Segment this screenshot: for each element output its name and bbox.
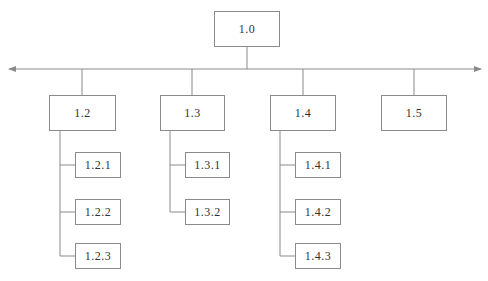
node-label: 1.3.2 (194, 205, 221, 220)
node-label: 1.0 (239, 22, 256, 37)
node-1-4: 1.4 (270, 95, 336, 131)
node-1-2-2: 1.2.2 (75, 199, 121, 225)
node-1-4-3: 1.4.3 (295, 243, 341, 269)
node-label: 1.4 (295, 106, 312, 121)
node-label: 1.5 (406, 106, 423, 121)
node-label: 1.3.1 (194, 158, 221, 173)
node-1-2: 1.2 (49, 95, 116, 131)
node-1-3-1: 1.3.1 (185, 152, 230, 178)
node-1-2-3: 1.2.3 (75, 243, 121, 269)
node-label: 1.4.1 (305, 158, 332, 173)
node-root: 1.0 (214, 11, 280, 47)
node-1-4-1: 1.4.1 (295, 152, 341, 178)
node-label: 1.4.2 (305, 205, 332, 220)
node-1-3: 1.3 (160, 95, 225, 131)
node-label: 1.2.1 (85, 158, 112, 173)
node-1-2-1: 1.2.1 (75, 152, 121, 178)
node-label: 1.2.2 (85, 205, 112, 220)
node-1-4-2: 1.4.2 (295, 199, 341, 225)
node-label: 1.3 (184, 106, 201, 121)
node-label: 1.2 (74, 106, 91, 121)
node-label: 1.2.3 (85, 249, 112, 264)
node-1-3-2: 1.3.2 (185, 199, 230, 225)
node-label: 1.4.3 (305, 249, 332, 264)
node-1-5: 1.5 (381, 95, 447, 131)
